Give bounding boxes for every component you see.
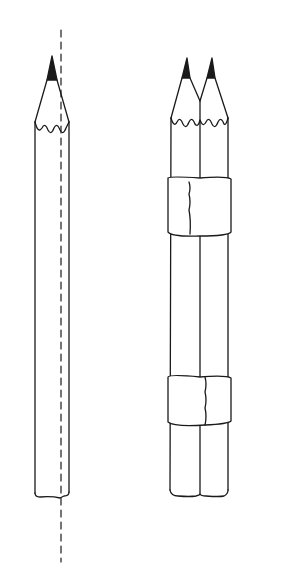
pencil-body <box>35 122 69 493</box>
single-pencil <box>35 56 69 498</box>
taped-pencils <box>168 58 231 497</box>
tape-band-lower <box>168 376 231 426</box>
pencil-end <box>35 492 69 498</box>
illustration <box>0 0 306 568</box>
pencil-wavy-edge <box>35 122 69 133</box>
tape-band-upper <box>168 177 231 236</box>
right-pencil-lead-icon <box>207 58 215 78</box>
left-pencil-lead-icon <box>182 58 190 78</box>
pencil-diagram <box>0 0 306 568</box>
pencil-cone <box>35 80 69 122</box>
pencil-end <box>170 490 228 497</box>
pencil-lead-icon <box>47 56 57 80</box>
